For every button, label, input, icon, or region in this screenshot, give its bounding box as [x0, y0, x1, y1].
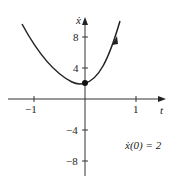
x-axis-label: t — [160, 105, 163, 116]
x-axis-arrow-icon — [158, 96, 166, 102]
phase-plot — [0, 0, 178, 181]
tick-label-y-neg4: −4 — [66, 125, 78, 136]
tick-label-y-4: 4 — [73, 63, 79, 74]
tick-label-y-neg8: −8 — [66, 156, 78, 167]
tick-label-x-neg1: −1 — [25, 104, 37, 115]
y-axis-label: ẋ — [76, 15, 81, 26]
solution-curve — [22, 21, 120, 84]
tick-label-y-8: 8 — [73, 32, 79, 43]
initial-point — [82, 80, 88, 86]
tick-label-x-1: 1 — [133, 104, 139, 115]
initial-condition-annotation: ẋ(0) = 2 — [125, 140, 161, 151]
y-axis-arrow-icon — [82, 17, 88, 25]
